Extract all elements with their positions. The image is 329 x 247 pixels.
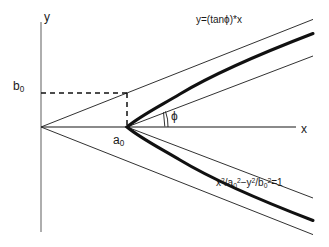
eq-over-a: /a <box>225 177 233 188</box>
a0-subscript: 0 <box>120 139 125 148</box>
y-axis-label: y <box>44 11 50 23</box>
a0-base: a <box>113 133 120 147</box>
b0-base: b <box>13 79 20 93</box>
phi-angle-tick <box>164 112 165 126</box>
eq-minus-y: −y <box>241 177 252 188</box>
tan-phi-equation-label: y=(tanϕ)*x <box>196 15 242 25</box>
b0-subscript: 0 <box>20 85 25 94</box>
x-axis-label: x <box>301 123 307 135</box>
hyperbola-equation-label: x2/a02−y2/b02=1 <box>216 178 283 190</box>
phi-angle-label: ϕ <box>171 110 178 122</box>
b0-label: b0 <box>13 80 24 94</box>
eq-over-b: /b <box>255 177 263 188</box>
hyperbola-diagram <box>0 0 329 247</box>
phi-angle-arc <box>166 111 169 127</box>
eq-equals-one: =1 <box>271 177 282 188</box>
a0-label: a0 <box>113 134 124 148</box>
tan-phi-line-upper <box>127 56 313 127</box>
